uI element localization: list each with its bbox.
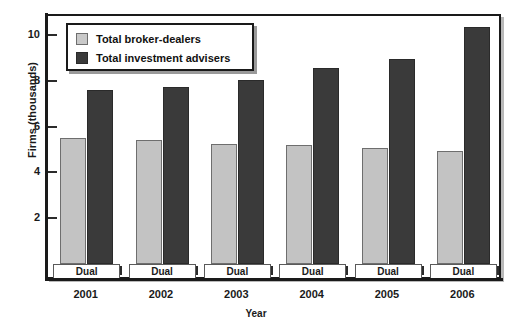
legend-swatch-icon-broker-dealers [76,33,88,45]
y-axis-tick [48,34,57,36]
y-axis-tick-label: 8 [10,74,40,86]
bar-2003-broker-dealers [211,144,237,264]
x-axis-label-2004: 2004 [282,288,342,300]
bar-2004-broker-dealers [286,145,312,264]
bar-2001-broker-dealers [60,138,86,264]
group-label-dual-2006: Dual [430,264,497,279]
x-axis-label-2002: 2002 [131,288,191,300]
y-axis-tick-label: 4 [10,165,40,177]
x-axis-label-2005: 2005 [357,288,417,300]
x-axis-tick [120,266,122,275]
bar-2006-investment-advisers [464,27,490,264]
y-axis-tick-label: 6 [10,120,40,132]
bar-2006-broker-dealers [437,151,463,264]
y-axis-tick [48,171,57,173]
x-axis-label-2003: 2003 [206,288,266,300]
chart-legend: Total broker-dealers Total investment ad… [66,23,254,71]
bar-chart: Firms (thousands) 246810Dual2001Dual2002… [0,0,512,326]
bar-2001-investment-advisers [87,90,113,264]
y-axis-tick [48,80,57,82]
x-axis-tick [422,266,424,275]
legend-label-broker-dealers: Total broker-dealers [96,33,201,45]
legend-swatch-icon-investment-advisers [76,52,88,64]
bar-2005-investment-advisers [389,59,415,264]
legend-label-investment-advisers: Total investment advisers [96,52,230,64]
bar-2002-broker-dealers [136,140,162,264]
legend-item-broker-dealers: Total broker-dealers [76,29,252,48]
y-axis-line [45,13,48,281]
bar-2004-investment-advisers [313,68,339,264]
group-label-dual-2004: Dual [279,264,346,279]
group-label-dual-2005: Dual [355,264,422,279]
y-axis-tick-label: 10 [10,28,40,40]
legend-item-investment-advisers: Total investment advisers [76,48,252,67]
x-axis-label-2006: 2006 [432,288,492,300]
y-axis-tick [48,217,57,219]
group-label-dual-2002: Dual [129,264,196,279]
x-axis-tick [196,266,198,275]
x-axis-tick [346,266,348,275]
y-axis-tick-label: 2 [10,211,40,223]
group-label-dual-2001: Dual [53,264,120,279]
bar-2003-investment-advisers [238,80,264,264]
x-axis-title: Year [0,308,512,319]
x-axis-label-2001: 2001 [56,288,116,300]
group-label-dual-2003: Dual [204,264,271,279]
x-axis-tick [271,266,273,275]
x-axis-tick [497,266,499,275]
bar-2005-broker-dealers [362,148,388,264]
x-axis-line [45,278,503,281]
y-axis-tick [48,126,57,128]
bar-2002-investment-advisers [163,87,189,264]
